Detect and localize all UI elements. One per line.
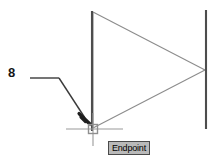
triangle-lower-edge	[93, 70, 205, 128]
leader-diagonal-segment	[59, 78, 85, 118]
leader-line	[30, 78, 90, 124]
dimension-value-label: 8	[8, 66, 15, 80]
leader-arrowhead-fill	[79, 114, 90, 125]
drawing-vector-layer	[0, 0, 221, 162]
triangle-shape	[93, 12, 205, 128]
triangle-upper-edge	[93, 12, 205, 70]
cad-drawing-canvas[interactable]: 8 Endpoint	[0, 0, 221, 162]
endpoint-tooltip: Endpoint	[108, 141, 150, 155]
